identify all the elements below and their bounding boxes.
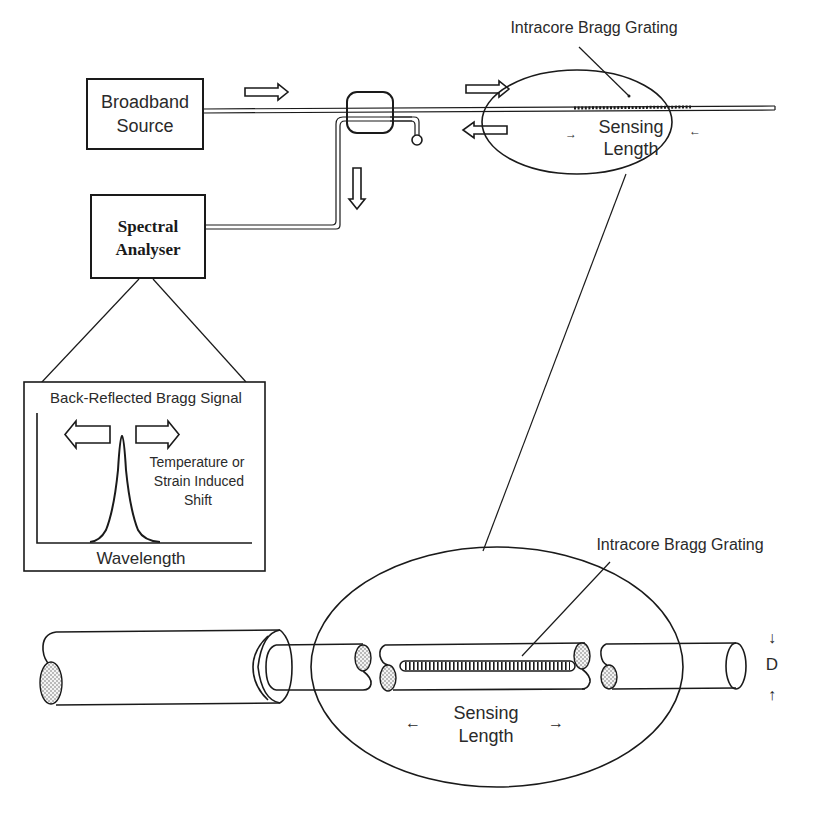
top-sensing-arrow-right: ← bbox=[689, 124, 701, 138]
magnified-sensing-label-line2: Length bbox=[458, 726, 513, 746]
shift-label-line1: Temperature or bbox=[150, 454, 245, 470]
termination-icon bbox=[412, 135, 422, 145]
shift-label-line2: Strain Induced bbox=[154, 473, 244, 489]
source-label-line1: Broadband bbox=[101, 92, 189, 112]
magnified-grating-label: Intracore Bragg Grating bbox=[596, 536, 763, 553]
spectral-analyser-box: Spectral Analyser bbox=[91, 195, 205, 278]
diameter-arrow-top: ↓ bbox=[768, 629, 776, 646]
top-sensing-label-line2: Length bbox=[603, 139, 658, 159]
fiber-cladding-segment-2 bbox=[380, 643, 590, 691]
diameter-label: D bbox=[766, 655, 778, 674]
analyser-label-line1: Spectral bbox=[118, 217, 179, 236]
source-label-line2: Source bbox=[116, 116, 173, 136]
inset-connector-left bbox=[41, 279, 139, 383]
arrow-down-icon bbox=[349, 168, 365, 209]
top-grating-label: Intracore Bragg Grating bbox=[510, 19, 677, 36]
top-sensing-arrow-left: → bbox=[565, 127, 577, 141]
fiber-cladding-segment-1 bbox=[266, 644, 371, 690]
broadband-source-box: Broadband Source bbox=[87, 79, 203, 149]
inset-connector-right bbox=[153, 279, 246, 382]
inset-xlabel: Wavelength bbox=[96, 549, 185, 568]
top-sensing-label-line1: Sensing bbox=[598, 117, 663, 137]
magnified-sensing-arrow-left: ← bbox=[405, 714, 421, 731]
top-sensing-ellipse: Intracore Bragg Grating Sensing Length →… bbox=[482, 19, 701, 174]
fiber-cladding-segment-3 bbox=[601, 643, 746, 689]
inset-title: Back-Reflected Bragg Signal bbox=[50, 389, 242, 406]
magnified-sensing-label-line1: Sensing bbox=[453, 703, 518, 723]
terminated-branch bbox=[390, 117, 422, 145]
spectrum-inset: Back-Reflected Bragg Signal Temperature … bbox=[24, 382, 265, 571]
magnified-grating-leader-line bbox=[522, 562, 610, 656]
diameter-arrow-bottom: ↑ bbox=[768, 686, 776, 703]
top-grating-leader-line bbox=[579, 47, 629, 96]
shift-label-line3: Shift bbox=[184, 492, 212, 508]
fiber-jacket-left bbox=[40, 630, 292, 705]
analyser-label-line2: Analyser bbox=[115, 240, 181, 259]
fbg-sensor-diagram: Broadband Source Spectral Analyser Intra… bbox=[0, 0, 814, 813]
magnified-sensing-arrow-right: → bbox=[548, 714, 564, 731]
arrow-right-icon bbox=[245, 84, 288, 100]
magnify-connector-line bbox=[483, 174, 626, 551]
